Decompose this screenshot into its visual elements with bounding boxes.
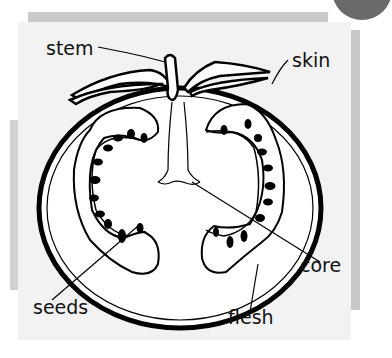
- label-skin: skin: [292, 49, 330, 71]
- label-seeds: seeds: [33, 296, 88, 318]
- label-flesh: flesh: [228, 306, 274, 328]
- leader-skin: [272, 60, 288, 84]
- label-stem: stem: [46, 37, 94, 59]
- leader-stem: [98, 47, 165, 62]
- stem-shape: [165, 55, 178, 100]
- label-core: core: [300, 254, 341, 276]
